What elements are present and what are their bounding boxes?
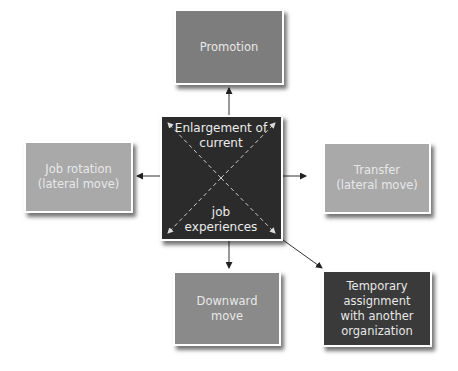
node-transfer: Transfer (lateral move) xyxy=(323,142,431,214)
node-label: Temporary assignment with another organi… xyxy=(340,279,413,339)
node-downward-move: Downward move xyxy=(173,271,281,346)
node-label: Job rotation (lateral move) xyxy=(38,162,120,192)
node-label: Promotion xyxy=(200,40,259,55)
node-promotion: Promotion xyxy=(174,9,284,85)
node-temporary-assignment: Temporary assignment with another organi… xyxy=(322,270,432,347)
node-label: Transfer (lateral move) xyxy=(336,163,418,193)
center-bottom-label: job experiences xyxy=(160,205,282,235)
node-label: Downward move xyxy=(197,294,258,324)
center-node: Enlargement of current job experiences xyxy=(160,115,283,241)
center-top-label: Enlargement of current xyxy=(160,121,282,151)
node-job-rotation: Job rotation (lateral move) xyxy=(24,141,133,213)
